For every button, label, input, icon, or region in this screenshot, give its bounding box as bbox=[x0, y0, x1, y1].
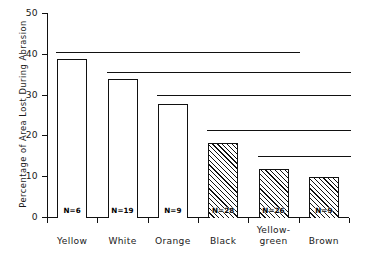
comparison-line-yellow bbox=[56, 52, 300, 53]
plot-area: 01020304050 N=6N=19N=9N=28N=26N=9 Yellow… bbox=[47, 14, 349, 218]
y-tick-label-40: 40 bbox=[26, 48, 38, 59]
y-tick-label-30: 30 bbox=[26, 89, 38, 100]
y-axis-title: Percentage of Area Lost During Abrasion bbox=[18, 9, 28, 219]
bar-sample-size-label: N=9 bbox=[159, 206, 187, 215]
x-category-label-yellow-green: Yellow-green bbox=[248, 225, 298, 246]
bar-chart-figure: Percentage of Area Lost During Abrasion … bbox=[0, 0, 366, 266]
x-category-label-black: Black bbox=[198, 236, 248, 247]
y-tick-label-0: 0 bbox=[32, 211, 38, 222]
x-tick bbox=[47, 218, 48, 223]
bar-sample-size-label: N=6 bbox=[58, 206, 86, 215]
x-tick bbox=[97, 218, 98, 223]
comparison-lines-group bbox=[47, 14, 349, 218]
comparison-line-yellow-green bbox=[258, 156, 351, 157]
bar-black: N=28 bbox=[208, 143, 238, 218]
x-category-label-brown: Brown bbox=[299, 236, 349, 247]
bar-white: N=19 bbox=[108, 79, 138, 218]
y-tick-label-50: 50 bbox=[26, 7, 38, 18]
x-category-label-orange: Orange bbox=[148, 236, 198, 247]
x-tick bbox=[299, 218, 300, 223]
x-tick bbox=[198, 218, 199, 223]
comparison-line-black bbox=[207, 130, 351, 131]
bar-sample-size-label: N=28 bbox=[209, 206, 237, 215]
bar-yellow-green: N=26 bbox=[259, 169, 289, 218]
bar-orange: N=9 bbox=[158, 104, 188, 218]
x-tick bbox=[148, 218, 149, 223]
x-tick bbox=[349, 218, 350, 223]
y-tick-label-10: 10 bbox=[26, 170, 38, 181]
bar-sample-size-label: N=19 bbox=[109, 206, 137, 215]
x-category-label-white: White bbox=[97, 236, 147, 247]
comparison-line-white bbox=[107, 72, 351, 73]
bar-brown: N=9 bbox=[309, 177, 339, 218]
bar-sample-size-label: N=9 bbox=[310, 206, 338, 215]
comparison-line-orange bbox=[157, 95, 351, 96]
x-tick bbox=[248, 218, 249, 223]
x-category-label-yellow: Yellow bbox=[47, 236, 97, 247]
bar-sample-size-label: N=26 bbox=[260, 206, 288, 215]
bar-yellow: N=6 bbox=[57, 59, 87, 218]
y-tick-label-20: 20 bbox=[26, 129, 38, 140]
